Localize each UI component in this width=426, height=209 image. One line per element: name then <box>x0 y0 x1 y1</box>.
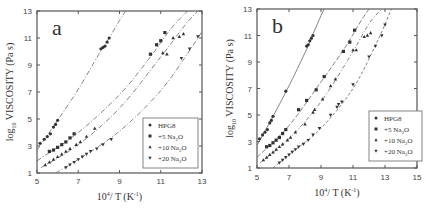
y-tick-label: 3 <box>28 142 33 151</box>
legend-label: HPG8 <box>158 122 176 130</box>
legend-label: +20 Na2O <box>384 148 412 157</box>
y-axis-title: log10 VISCOSITY (Pa s) <box>224 39 237 138</box>
x-tick-label: 11 <box>157 177 166 186</box>
x-tick-label: 5 <box>35 177 40 186</box>
x-tick-label: 13 <box>381 173 390 182</box>
y-tick-label: 11 <box>24 34 33 43</box>
legend-label: +5 Na2O <box>384 126 409 135</box>
x-tick-label: 9 <box>117 177 122 186</box>
viscosity-chart-a: 1357911135791113104/ T (K-1)log10 VISCOS… <box>0 0 213 209</box>
y-tick-label: 13 <box>243 5 252 14</box>
y-tick-label: 1 <box>248 164 253 173</box>
y-tick-label: 1 <box>28 169 33 178</box>
y-tick-label: 3 <box>248 138 253 147</box>
legend: HPG8+5 Na2O+10 Na2O+20 Na2O <box>143 118 198 168</box>
legend-label: +5 Na2O <box>158 133 183 142</box>
chart-panel-b: 135791113579111315104/ T (K-1)log10 VISC… <box>213 0 426 209</box>
x-tick-label: 7 <box>287 173 292 182</box>
legend-label: +20 Na2O <box>158 155 186 164</box>
y-tick-label: 5 <box>28 115 33 124</box>
series-circle <box>257 9 324 145</box>
y-tick-label: 7 <box>248 85 253 94</box>
chart-panel-a: 1357911135791113104/ T (K-1)log10 VISCOS… <box>0 0 213 209</box>
y-axis-title: log10 VISCOSITY (Pa s) <box>4 43 17 142</box>
legend-label: HPG8 <box>384 115 402 123</box>
legend-label: +10 Na2O <box>158 144 186 153</box>
x-tick-label: 13 <box>198 177 207 186</box>
y-tick-label: 7 <box>28 88 33 97</box>
y-tick-label: 5 <box>248 111 253 120</box>
panel-letter: b <box>272 13 283 38</box>
y-tick-label: 13 <box>23 7 32 16</box>
viscosity-chart-b: 135791113579111315104/ T (K-1)log10 VISC… <box>213 0 426 209</box>
legend: HPG8+5 Na2O+10 Na2O+20 Na2O <box>369 111 422 161</box>
x-tick-label: 11 <box>349 173 358 182</box>
y-tick-label: 9 <box>248 58 253 67</box>
panel-letter: a <box>52 15 62 40</box>
x-tick-label: 9 <box>319 173 324 182</box>
y-tick-label: 9 <box>28 61 33 70</box>
series-circle <box>37 11 126 150</box>
legend-label: +10 Na2O <box>384 137 412 146</box>
x-tick-label: 15 <box>413 173 422 182</box>
x-axis-title: 104/ T (K-1) <box>97 191 142 203</box>
x-tick-label: 5 <box>255 173 260 182</box>
x-tick-label: 7 <box>76 177 81 186</box>
x-axis-title: 104/ T (K-1) <box>314 187 359 199</box>
y-tick-label: 11 <box>244 32 253 41</box>
